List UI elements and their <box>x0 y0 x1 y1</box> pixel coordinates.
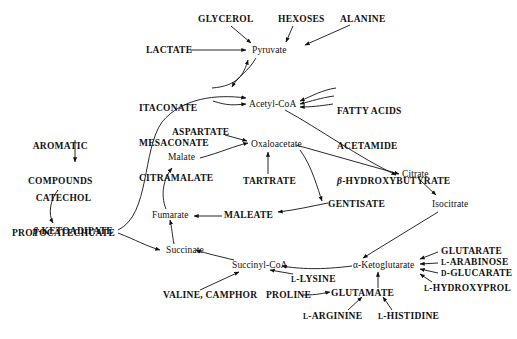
edge-ketoglutarate-succinylcoa <box>282 266 352 269</box>
node-beta-ketoadipate: β-KETOADIPATE <box>33 226 113 236</box>
node-malate: Malate <box>168 152 195 162</box>
node-oxaloacetate: Oxaloacetate <box>251 139 302 149</box>
edge-glucarate-ketoglutarate <box>420 269 438 273</box>
node-maleate: MALEATE <box>224 210 273 220</box>
edge-pyruvate-acetylcoa <box>232 58 256 87</box>
node-itaconate-group: ITACONATE MESACONATE CITRAMALATE <box>139 79 213 208</box>
node-l-lysine: L-LYSINE <box>291 274 336 284</box>
node-d-glucarate: D-GLUCARATE <box>441 268 512 278</box>
node-gentisate: GENTISATE <box>328 199 385 209</box>
node-glutarate: GLUTARATE <box>441 246 502 256</box>
node-aspartate: ASPARTATE <box>172 127 229 137</box>
label-itaconate: ITACONATE <box>139 103 213 115</box>
edge-hydroxybutyrate-acetylcoa <box>300 104 333 107</box>
node-succinyl-coa: Succinyl-CoA <box>232 260 288 270</box>
node-l-histidine: L-HISTIDINE <box>378 311 439 321</box>
edge-gentisate-maleate <box>278 203 328 212</box>
node-succinate: Succinate <box>166 245 204 255</box>
node-l-arabinose: L-ARABINOSE <box>441 257 508 267</box>
edge-itaconate-acetylcoa <box>213 101 246 105</box>
edge-hydroxyproline-ketoglutarate <box>420 274 432 282</box>
node-l-hydroxyproline: L-HYDROXYPROL <box>424 283 511 293</box>
edge-hexoses-pyruvate <box>286 26 293 42</box>
node-fatty-acids-group: FATTY ACIDS ACETAMIDE β-HYDROXYBUTYRATE <box>337 82 450 211</box>
node-pyruvate: Pyruvate <box>252 45 287 55</box>
edge-glycerol-pyruvate <box>231 26 251 43</box>
edge-valinecamphor-succinylcoa <box>200 272 239 290</box>
label-catechol: CATECHOL <box>12 193 115 205</box>
edge-glutarate-ketoglutarate <box>420 252 438 259</box>
node-proline: PROLINE <box>266 290 311 300</box>
node-fumarate: Fumarate <box>152 210 189 220</box>
edge-arginine-glutamate <box>348 297 362 310</box>
label-fatty-acids: FATTY ACIDS <box>337 106 450 118</box>
edge-ketoadipate-succinate <box>118 233 160 250</box>
label-mesaconate: MESACONATE <box>139 138 213 150</box>
edge-isocitrate-ketoglutarate <box>363 212 438 258</box>
label-citramalate: CITRAMALATE <box>139 173 213 185</box>
label-aromatic: AROMATIC <box>28 141 93 153</box>
edge-acetamide-acetylcoa <box>300 96 334 104</box>
edge-oxaloacetate-gentisate <box>300 150 322 201</box>
pathway-diagram: GLYCEROL HEXOSES ALANINE LACTATE Pyruvat… <box>0 0 517 339</box>
label-beta-hydroxybutyrate: β-HYDROXYBUTYRATE <box>337 176 450 188</box>
node-glycerol: GLYCEROL <box>198 14 254 24</box>
node-alanine: ALANINE <box>340 14 386 24</box>
edge-arabinose-ketoglutarate <box>420 263 438 264</box>
node-citrate: Citrate <box>402 169 429 179</box>
edge-histidine-glutamate <box>383 297 392 310</box>
node-catechol-protocatechuate: CATECHOL PROTOCATECHUATE <box>12 169 115 263</box>
node-hexoses: HEXOSES <box>278 14 325 24</box>
label-acetamide: ACETAMIDE <box>337 141 450 153</box>
edge-lysine-succinylcoa <box>270 270 293 274</box>
node-acetyl-coa: Acetyl-CoA <box>249 99 296 109</box>
node-alpha-ketoglutarate: α-Ketoglutarate <box>353 260 414 270</box>
node-valine-camphor: VALINE, CAMPHOR <box>163 290 257 300</box>
node-glutamate: GLUTAMATE <box>331 288 394 298</box>
node-lactate: LACTATE <box>146 45 192 55</box>
edge-alanine-pyruvate <box>305 25 350 45</box>
node-isocitrate: Isocitrate <box>432 199 468 209</box>
node-l-arginine: L-ARGININE <box>303 311 362 321</box>
edge-succinate-fumarate <box>170 220 174 244</box>
node-tartrate: TARTRATE <box>243 176 296 186</box>
